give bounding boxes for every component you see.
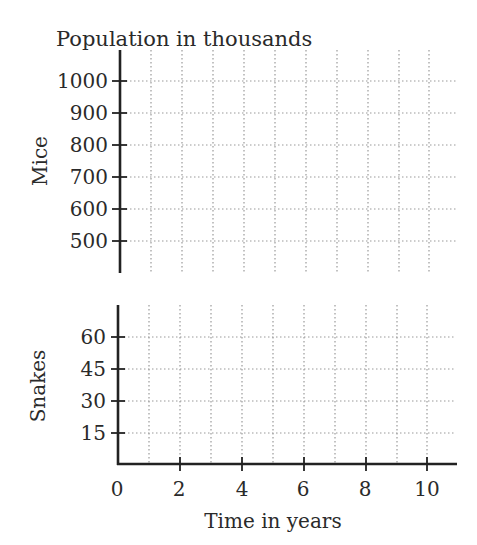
snakes-axis-label: Snakes <box>26 350 50 423</box>
tick-label: 45 <box>81 357 106 381</box>
mice-tick-labels: 1000 900 800 700 600 500 <box>57 69 108 253</box>
chart-title: Population in thousands <box>56 27 312 51</box>
tick-label: 10 <box>414 477 439 501</box>
tick-label: 900 <box>70 101 108 125</box>
tick-label: 0 <box>111 477 124 501</box>
tick-label: 30 <box>81 389 106 413</box>
tick-label: 700 <box>70 165 108 189</box>
mice-horizontal-grid <box>126 81 457 241</box>
tick-label: 60 <box>81 325 106 349</box>
tick-label: 500 <box>70 229 108 253</box>
population-chart: Population in thousands <box>0 0 477 545</box>
snakes-chart: 60 45 30 15 Snakes 0 2 4 6 8 10 Time in … <box>26 305 457 533</box>
mice-axis-label: Mice <box>28 136 52 186</box>
snakes-horizontal-grid <box>124 337 455 433</box>
tick-label: 15 <box>81 421 106 445</box>
tick-label: 2 <box>173 477 186 501</box>
tick-label: 4 <box>236 477 249 501</box>
tick-label: 600 <box>70 197 108 221</box>
snakes-vertical-grid <box>149 305 427 463</box>
x-axis-label: Time in years <box>204 509 341 533</box>
tick-label: 1000 <box>57 69 108 93</box>
mice-chart: 1000 900 800 700 600 500 Mice <box>28 50 457 273</box>
x-tick-labels: 0 2 4 6 8 10 <box>111 477 440 501</box>
mice-vertical-grid <box>151 50 429 272</box>
tick-label: 8 <box>359 477 372 501</box>
tick-label: 800 <box>70 133 108 157</box>
snakes-tick-labels: 60 45 30 15 <box>81 325 106 445</box>
tick-label: 6 <box>297 477 310 501</box>
